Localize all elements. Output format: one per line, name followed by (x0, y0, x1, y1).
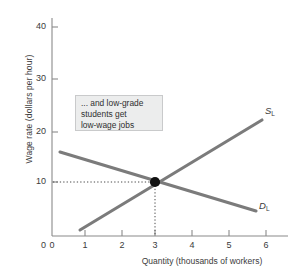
y-tick-label-0: 0 (24, 240, 46, 250)
x-tick-label-0: 0 (45, 240, 59, 250)
supply-curve-label-sub: L (271, 110, 275, 117)
x-tick-label-4: 4 (185, 240, 199, 250)
annotation-line-3: low-wage jobs (81, 120, 158, 131)
demand-curve-label-text: D (259, 200, 266, 211)
annotation-line-1: ... and low-grade (81, 98, 158, 109)
x-tick-label-1: 1 (78, 240, 92, 250)
equilibrium-point-marker (150, 177, 160, 187)
x-axis-title: Quantity (thousands of workers) (110, 256, 294, 266)
x-tick-label-6: 6 (259, 240, 273, 250)
demand-curve-label-sub: L (266, 205, 270, 212)
y-axis-ticks (52, 27, 58, 182)
y-tick-label-10: 10 (24, 176, 46, 186)
annotation-line-2: students get (81, 109, 158, 120)
x-tick-label-5: 5 (222, 240, 236, 250)
y-tick-label-40: 40 (24, 21, 46, 31)
x-tick-label-3: 3 (148, 240, 162, 250)
y-tick-label-20: 20 (24, 126, 46, 136)
chart-canvas (0, 0, 294, 276)
supply-curve-label: SL (265, 105, 275, 116)
x-tick-label-2: 2 (115, 240, 129, 250)
demand-curve-label: DL (259, 200, 270, 211)
supply-curve (80, 120, 262, 230)
x-axis-ticks (85, 230, 266, 236)
y-tick-label-30: 30 (24, 73, 46, 83)
chart-figure: Wage rate (dollars per hour) 40 30 20 10… (0, 0, 294, 276)
annotation-note-box: ... and low-grade students get low-wage … (75, 95, 163, 131)
y-axis-title: Wage rate (dollars per hour) (24, 34, 34, 184)
